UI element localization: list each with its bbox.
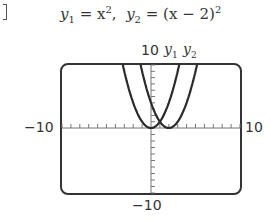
graph-canvas (0, 0, 271, 222)
